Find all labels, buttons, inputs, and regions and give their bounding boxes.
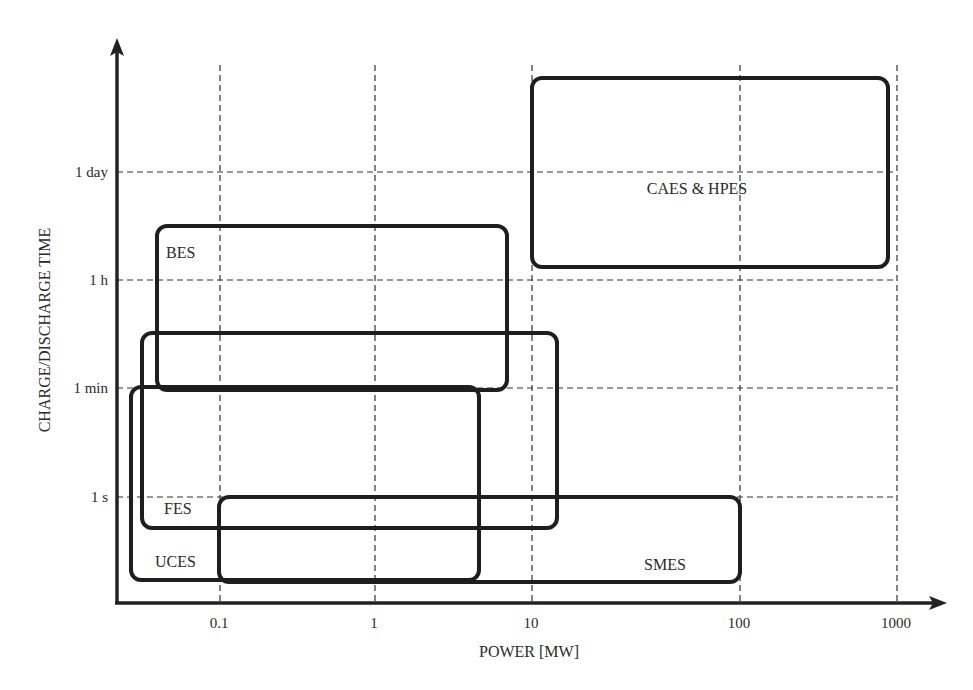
technology-regions [131,78,888,582]
region-uces [131,387,479,580]
y-tick-1day: 1 day [75,164,108,180]
region-bes [157,226,507,390]
label-caes-hpes: CAES & HPES [647,180,747,197]
x-tick-10: 10 [524,615,539,631]
y-tick-1min: 1 min [73,380,108,396]
y-tick-1s: 1 s [91,489,108,505]
label-uces: UCES [155,553,196,570]
y-tick-1h: 1 h [89,272,108,288]
x-axis-title: POWER [MW] [479,643,579,660]
x-tick-0.1: 0.1 [210,615,229,631]
y-axis-title: CHARGE/DISCHARGE TIME [36,228,53,433]
label-bes: BES [166,244,195,261]
x-tick-labels: 0.1 1 10 100 1000 [210,615,911,631]
storage-technology-diagram: CAES & HPES BES FES UCES SMES 0.1 1 10 1… [0,0,973,690]
label-fes: FES [164,500,192,517]
x-tick-1000: 1000 [881,615,911,631]
y-tick-labels: 1 day 1 h 1 min 1 s [73,164,108,505]
label-smes: SMES [644,556,686,573]
region-labels: CAES & HPES BES FES UCES SMES [155,180,747,573]
axes [110,38,947,610]
x-tick-100: 100 [728,615,751,631]
x-tick-1: 1 [370,615,378,631]
